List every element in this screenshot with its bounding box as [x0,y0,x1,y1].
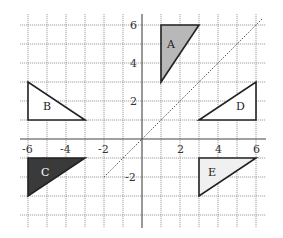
label-a: A [166,38,176,51]
triangle-a [161,25,199,82]
label-b: B [43,100,51,113]
label-d: D [236,100,245,113]
x-tick-6: 6 [253,143,260,156]
triangle-d [199,82,256,120]
x-tick-2: 2 [177,143,184,156]
x-tick-neg6: -6 [22,143,33,156]
y-tick-6: 6 [130,19,137,32]
x-tick-neg4: -4 [60,143,71,156]
y-tick-4: 4 [130,57,137,70]
grid-lines [20,14,266,228]
label-e: E [208,166,216,179]
x-tick-neg2: -2 [98,143,109,156]
coordinate-grid-diagram: A B C D E -6 -4 -2 2 4 6 6 4 2 -2 [0,0,283,238]
y-tick-neg2: -2 [125,171,136,184]
label-c: C [41,166,49,179]
x-tick-4: 4 [215,143,222,156]
y-tick-2: 2 [130,95,137,108]
